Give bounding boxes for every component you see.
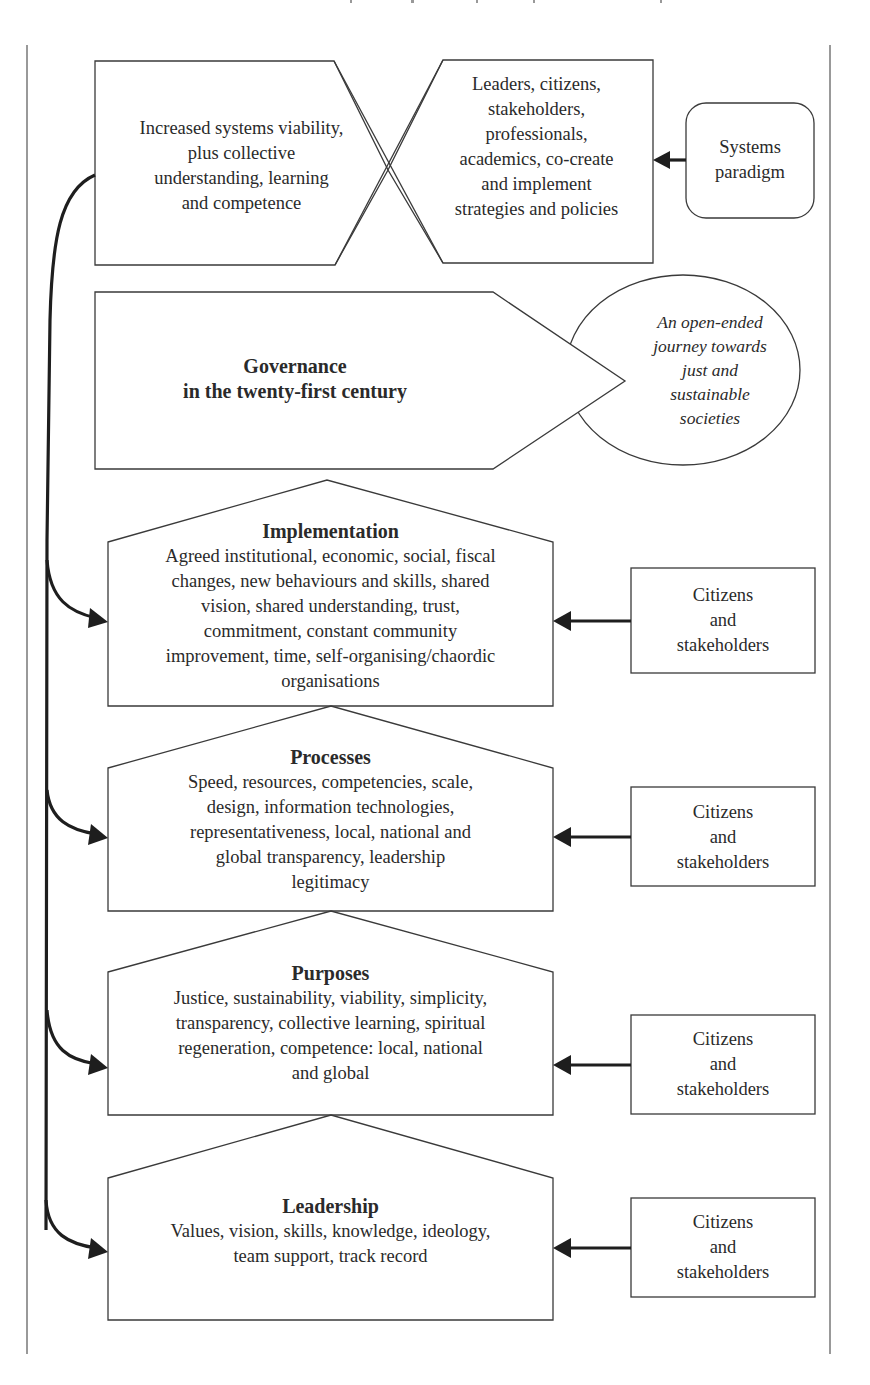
layer-title: Purposes: [108, 961, 553, 986]
actors-line: and implement: [420, 172, 653, 197]
citizens-line: Citizens: [631, 1210, 815, 1235]
layer-line: transparency, collective learning, spiri…: [108, 1011, 553, 1036]
layer-line: improvement, time, self-organising/chaor…: [108, 644, 553, 669]
citizens-line: Citizens: [631, 583, 815, 608]
paradigm-arrow-head: [653, 151, 670, 169]
outcome-line: and competence: [95, 191, 388, 216]
layer-line: Agreed institutional, economic, social, …: [108, 544, 553, 569]
layer-line: vision, shared understanding, trust,: [108, 594, 553, 619]
governance-title: Governance in the twenty-first century: [95, 354, 495, 404]
layer-line: team support, track record: [108, 1244, 553, 1269]
actors-line: Leaders, citizens,: [420, 72, 653, 97]
journey-text: An open-ended journey towards just and s…: [620, 310, 800, 430]
actors-line: strategies and policies: [420, 197, 653, 222]
journey-line: sustainable: [620, 382, 800, 406]
citizens-label-2: Citizens and stakeholders: [631, 800, 815, 875]
citizens-line: stakeholders: [631, 633, 815, 658]
citizens-line: Citizens: [631, 800, 815, 825]
citizens-label-4: Citizens and stakeholders: [631, 1210, 815, 1285]
outcome-line: understanding, learning: [95, 166, 388, 191]
outcome-line: plus collective: [95, 141, 388, 166]
journey-line: journey towards: [620, 334, 800, 358]
layer-title: Leadership: [108, 1194, 553, 1219]
citizens-line: Citizens: [631, 1027, 815, 1052]
actors-text: Leaders, citizens, stakeholders, profess…: [420, 72, 653, 222]
layer-line: commitment, constant community: [108, 619, 553, 644]
governance-title-line2: in the twenty-first century: [95, 379, 495, 404]
citizens-arrows: [553, 611, 631, 1258]
systems-paradigm-label: Systems paradigm: [686, 135, 814, 185]
citizens-line: and: [631, 1052, 815, 1077]
layer-line: legitimacy: [108, 870, 553, 895]
layer-line: Values, vision, skills, knowledge, ideol…: [108, 1219, 553, 1244]
layer-line: regeneration, competence: local, nationa…: [108, 1036, 553, 1061]
actors-line: academics, co-create: [420, 147, 653, 172]
actors-line: professionals,: [420, 122, 653, 147]
citizens-label-1: Citizens and stakeholders: [631, 583, 815, 658]
processes-text: Processes Speed, resources, competencies…: [108, 745, 553, 895]
journey-line: just and: [620, 358, 800, 382]
paradigm-line: paradigm: [686, 160, 814, 185]
citizens-line: and: [631, 608, 815, 633]
citizens-line: stakeholders: [631, 850, 815, 875]
citizens-line: and: [631, 1235, 815, 1260]
cropped-header-marks: [350, 0, 662, 3]
actors-line: stakeholders,: [420, 97, 653, 122]
layer-title: Implementation: [108, 519, 553, 544]
layer-line: and global: [108, 1061, 553, 1086]
outcome-text: Increased systems viability, plus collec…: [95, 116, 388, 216]
journey-line: An open-ended: [620, 310, 800, 334]
citizens-line: stakeholders: [631, 1077, 815, 1102]
layer-title: Processes: [108, 745, 553, 770]
outcome-line: Increased systems viability,: [95, 116, 388, 141]
layer-line: changes, new behaviours and skills, shar…: [108, 569, 553, 594]
layer-line: organisations: [108, 669, 553, 694]
citizens-label-3: Citizens and stakeholders: [631, 1027, 815, 1102]
layer-line: global transparency, leadership: [108, 845, 553, 870]
citizens-line: and: [631, 825, 815, 850]
layer-line: Speed, resources, competencies, scale,: [108, 770, 553, 795]
citizens-line: stakeholders: [631, 1260, 815, 1285]
layer-line: Justice, sustainability, viability, simp…: [108, 986, 553, 1011]
journey-line: societies: [620, 406, 800, 430]
layer-line: representativeness, local, national and: [108, 820, 553, 845]
purposes-text: Purposes Justice, sustainability, viabil…: [108, 961, 553, 1086]
leadership-text: Leadership Values, vision, skills, knowl…: [108, 1194, 553, 1269]
implementation-text: Implementation Agreed institutional, eco…: [108, 519, 553, 694]
layer-line: design, information technologies,: [108, 795, 553, 820]
governance-title-line1: Governance: [95, 354, 495, 379]
paradigm-line: Systems: [686, 135, 814, 160]
